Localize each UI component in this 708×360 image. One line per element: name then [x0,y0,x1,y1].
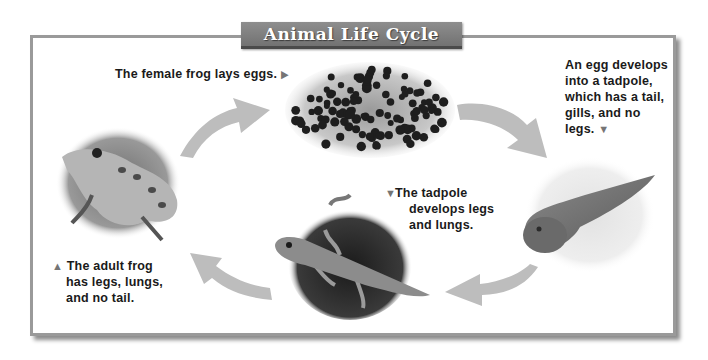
diagram-title: Animal Life Cycle [241,22,462,49]
egg-dot [328,73,335,80]
egg-dot [406,140,414,148]
egg-dot [330,90,336,96]
egg-dot [374,142,381,149]
egg-dot [402,91,409,98]
egg-dot [432,126,439,133]
egg-dot [324,103,330,109]
egg-dot [333,98,341,106]
egg-dot [395,125,405,135]
egg-dot [341,98,350,107]
egg-dot [413,107,421,115]
caption-line: An egg develops [565,57,675,73]
arrow-legs-to-frog [180,248,275,303]
egg-dot [421,106,429,114]
egg-dot [387,98,395,106]
egg-dot [375,133,381,139]
egg-dot [428,108,434,114]
egg-dot [355,73,365,83]
arrow-tadpole-to-legs [440,262,540,312]
egg-dot [330,117,339,126]
down-triangle-icon: ▼ [598,121,609,137]
egg-dot [425,99,432,106]
arrow-frog-to-eggs [175,88,275,158]
egg-dot [376,109,384,117]
egg-dot [382,91,389,98]
egg-dot [314,106,323,115]
egg-dot [352,125,360,133]
egg-dot [417,88,425,96]
egg-dot [307,95,315,103]
caption-line: into a tadpole, [565,73,675,89]
egg-dot [364,75,372,83]
egg-dot [385,131,393,139]
egg-dot [350,98,358,106]
egg-dot [424,80,432,88]
egg-dot [367,116,374,123]
egg-dot [338,82,344,88]
egg-dot [336,133,344,141]
egg-dot [368,66,376,74]
egg-dot [402,73,409,80]
caption-eggs-text: The female frog lays eggs. [115,67,277,81]
caption-line: and no tail. [52,290,182,306]
egg-dot [324,87,330,93]
egg-dot [383,72,390,79]
egg-dot [437,118,447,128]
egg-dot [291,106,300,115]
egg-dot [359,131,366,138]
egg-dot [316,96,323,103]
adult-frog-image [52,125,184,245]
egg-dot [321,140,330,149]
egg-dot [318,121,327,130]
egg-dot [409,99,417,107]
caption-eggs: The female frog lays eggs. ▶ [115,66,289,82]
egg-dot [411,114,419,122]
up-triangle-icon: ▲ [52,258,63,274]
egg-dot [397,117,404,124]
title-text: Animal Life Cycle [264,24,439,44]
egg-dot [345,109,355,119]
egg-dot [336,110,344,118]
caption-line: gills, and no [565,105,675,121]
caption-line: The adult frog [67,259,153,273]
caption-line: has legs, lungs, [52,274,182,290]
egg-dot [328,107,337,116]
egg-dot [432,94,440,102]
caption-line: which has a tail, [565,89,675,105]
egg-dot [357,142,366,151]
egg-dot [373,82,380,89]
egg-dot [384,112,391,119]
egg-dot [352,91,359,98]
caption-tadpole: An egg develops into a tadpole, which ha… [565,57,675,137]
egg-dot [388,120,394,126]
egg-dot [366,133,374,141]
egg-dot [439,97,448,106]
egg-dot [361,113,367,119]
arrow-eggs-to-tadpole [452,100,552,160]
egg-dot [344,122,353,131]
egg-dot [347,87,354,94]
caption-line: legs. [565,122,595,136]
egg-dot [412,131,421,140]
tadpole-with-legs-image [265,190,435,320]
frog-eggs-image [280,55,460,170]
egg-dot [302,126,310,134]
caption-adult-frog: ▲ The adult frog has legs, lungs, and no… [52,258,182,306]
